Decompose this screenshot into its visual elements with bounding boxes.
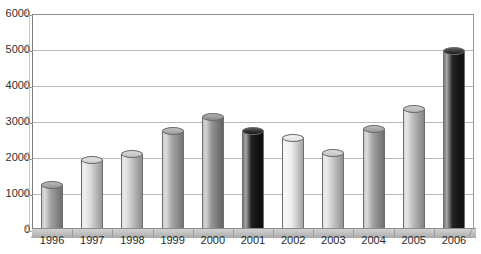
bar-1996: [41, 181, 63, 230]
x-tick-label: 2002: [271, 234, 315, 247]
cylinder-top: [242, 127, 264, 135]
bar-2004: [363, 125, 385, 230]
cylinder-body: [282, 138, 304, 230]
x-tick-label: 2005: [392, 234, 436, 247]
cylinder-top: [41, 181, 63, 189]
bar-2000: [202, 113, 224, 230]
cylinder-top: [81, 156, 103, 164]
bar-2003: [322, 149, 344, 230]
bar-2002: [282, 134, 304, 230]
cylinder-body: [363, 129, 385, 230]
x-tick-label: 1997: [70, 234, 114, 247]
x-tick-label: 2003: [311, 234, 355, 247]
cylinder-body: [81, 160, 103, 230]
cylinder-top: [162, 127, 184, 135]
x-tick-label: 2000: [191, 234, 235, 247]
cylinder-body: [121, 154, 143, 230]
bar-1999: [162, 127, 184, 230]
x-tick-label: 2004: [352, 234, 396, 247]
cylinder-body: [162, 131, 184, 230]
bar-chart: 6000500040003000200010000 19961997199819…: [0, 0, 481, 254]
x-tick-label: 1999: [151, 234, 195, 247]
bar-1998: [121, 150, 143, 230]
x-axis-labels: 1996199719981999200020012002200320042005…: [0, 234, 481, 250]
bar-2005: [403, 105, 425, 230]
cylinder-top: [363, 125, 385, 133]
x-tick-label: 2006: [432, 234, 476, 247]
x-tick-label: 1998: [110, 234, 154, 247]
x-tick-label: 2001: [231, 234, 275, 247]
cylinder-top: [443, 47, 465, 55]
cylinder-body: [242, 131, 264, 230]
bar-2001: [242, 127, 264, 230]
cylinder-top: [202, 113, 224, 121]
bar-1997: [81, 156, 103, 230]
cylinder-body: [322, 153, 344, 230]
cylinder-body: [202, 117, 224, 230]
cylinder-top: [322, 149, 344, 157]
cylinder-body: [443, 51, 465, 230]
bars-layer: [0, 0, 481, 254]
cylinder-body: [41, 185, 63, 230]
cylinder-body: [403, 109, 425, 230]
x-tick-label: 1996: [30, 234, 74, 247]
bar-2006: [443, 47, 465, 230]
